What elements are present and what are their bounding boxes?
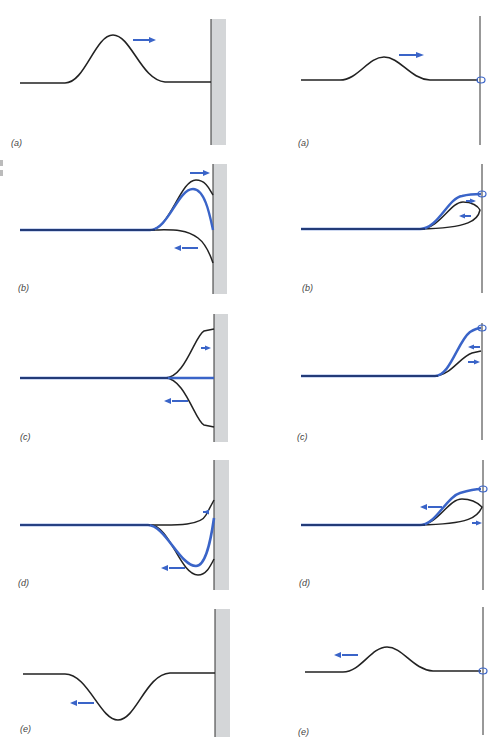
wall <box>215 609 230 737</box>
panel-label: (b) <box>302 283 313 293</box>
wall <box>213 164 227 294</box>
pulse-diagram <box>250 305 502 455</box>
panel-label: (e) <box>20 724 31 734</box>
arrow-left-icon <box>70 700 94 706</box>
incident-pulse <box>165 329 214 378</box>
right-panel-d: (d) <box>250 455 502 600</box>
arrow-right-icon <box>201 346 211 351</box>
left-panel-a: (a) <box>0 0 250 150</box>
panel-label: (e) <box>298 727 309 737</box>
left-panel-e: (e) <box>0 600 250 754</box>
sum-pulse <box>301 194 481 229</box>
sum-pulse <box>301 328 481 376</box>
panel-label: (d) <box>299 578 310 588</box>
pulse-diagram <box>0 455 250 600</box>
wall <box>211 19 226 145</box>
reflected-pulse <box>305 647 481 672</box>
left-panel-c: (c) <box>0 305 250 455</box>
panel-label: (b) <box>18 283 29 293</box>
panel-label: (a) <box>298 138 309 148</box>
wall <box>214 314 228 442</box>
reflected-pulse <box>23 673 215 720</box>
arrow-right-icon <box>190 170 210 176</box>
pulse-diagram <box>0 0 250 150</box>
reflected-pulse <box>150 230 213 263</box>
left-panel-b: (b) <box>0 150 250 305</box>
arrow-left-icon <box>468 345 480 350</box>
incident-pulse <box>20 35 211 83</box>
reflected-pulse <box>165 378 214 427</box>
arrow-left-icon <box>420 504 442 510</box>
pulse-diagram <box>0 600 250 754</box>
right-panel-e: (e) <box>250 600 502 754</box>
pulse-diagram <box>250 0 502 150</box>
arrow-left-icon <box>174 245 198 251</box>
pulse-diagram <box>250 150 502 305</box>
pulse-diagram <box>250 600 502 754</box>
arrow-right-icon <box>472 521 482 526</box>
arrow-left-icon <box>164 398 188 404</box>
panel-label: (c) <box>20 432 31 442</box>
arrow-right-icon <box>468 360 480 365</box>
pulse-diagram <box>0 305 250 455</box>
arrow-right-icon <box>399 52 424 58</box>
pulse-diagram <box>250 455 502 600</box>
arrow-right-icon <box>133 37 156 43</box>
arrow-left-icon <box>161 565 185 571</box>
wall <box>214 460 229 590</box>
left-panel-d: (d) <box>0 455 250 600</box>
panel-label: (d) <box>18 578 29 588</box>
right-panel-b: (b) <box>250 150 502 305</box>
arrow-left-icon <box>459 214 471 219</box>
arrow-left-icon <box>334 652 358 658</box>
panel-label: (a) <box>11 138 22 148</box>
incident-pulse <box>150 180 213 230</box>
sum-pulse <box>301 489 481 525</box>
right-panel-c: (c) <box>250 305 502 455</box>
pulse-diagram <box>0 150 250 305</box>
panel-label: (c) <box>297 432 308 442</box>
sum-pulse <box>20 189 213 230</box>
right-panel-a: (a) <box>250 0 502 150</box>
incident-pulse <box>301 57 478 80</box>
ring-icon <box>477 77 485 83</box>
